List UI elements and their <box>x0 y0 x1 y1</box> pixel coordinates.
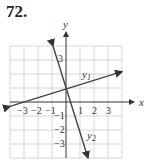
svg-text:−2: −2 <box>54 124 65 135</box>
svg-text:−3: −3 <box>54 138 65 149</box>
svg-text:2: 2 <box>92 105 97 116</box>
svg-text:1: 1 <box>78 105 83 116</box>
y-axis-label: y <box>62 18 68 30</box>
svg-text:−3: −3 <box>17 105 28 116</box>
y1-label: y1 <box>81 68 91 82</box>
svg-text:3: 3 <box>106 105 111 116</box>
svg-text:−2: −2 <box>31 105 42 116</box>
svg-text:−1: −1 <box>54 110 65 121</box>
x-axis-label: x <box>138 96 144 108</box>
y2-label: y2 <box>86 129 96 143</box>
coordinate-plot: x y −3 −2 −1 1 2 3 3 −1 −2 −3 y1 y2 <box>0 0 148 162</box>
